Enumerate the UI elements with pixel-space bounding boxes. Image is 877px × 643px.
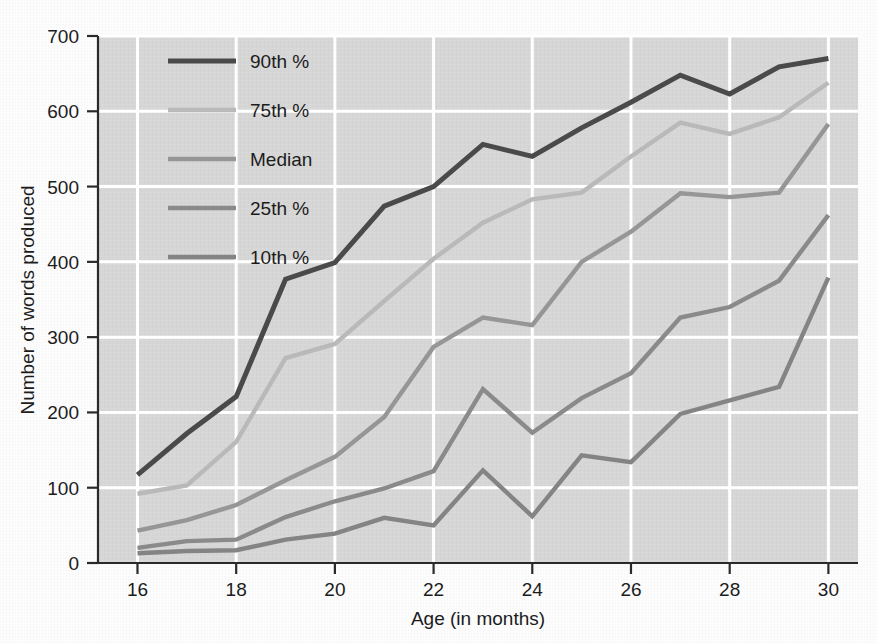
x-axis-tick-labels: 1618202224262830	[127, 579, 839, 600]
x-axis-tick-label: 20	[324, 579, 345, 600]
y-axis-tick-label: 0	[68, 553, 79, 574]
legend-label-25th: 25th %	[250, 198, 309, 219]
y-axis-tick-label: 700	[47, 26, 79, 47]
word-production-percentile-chart: 0100200300400500600700 1618202224262830 …	[0, 0, 877, 643]
y-axis-tick-labels: 0100200300400500600700	[47, 26, 79, 574]
x-axis-tick-label: 16	[127, 579, 148, 600]
x-axis-title: Age (in months)	[411, 608, 545, 629]
legend-label-90th: 90th %	[250, 51, 309, 72]
x-axis-tick-label: 26	[620, 579, 641, 600]
y-axis-title: Number of words produced	[17, 185, 38, 414]
legend-label-10th: 10th %	[250, 247, 309, 268]
chart-canvas: 0100200300400500600700 1618202224262830 …	[0, 0, 877, 643]
y-axis-tick-label: 100	[47, 478, 79, 499]
x-axis-tick-label: 22	[423, 579, 444, 600]
y-axis-tick-label: 600	[47, 101, 79, 122]
x-axis-tick-label: 18	[226, 579, 247, 600]
y-axis-tick-label: 300	[47, 327, 79, 348]
legend-label-median: Median	[250, 149, 312, 170]
x-axis-tick-label: 28	[719, 579, 740, 600]
y-axis-tick-label: 400	[47, 252, 79, 273]
chart-page: 0100200300400500600700 1618202224262830 …	[0, 0, 877, 643]
y-axis-tick-label: 200	[47, 402, 79, 423]
x-axis-ticks	[137, 563, 828, 574]
y-axis-ticks	[87, 36, 98, 563]
x-axis-tick-label: 24	[522, 579, 544, 600]
x-axis-tick-label: 30	[818, 579, 839, 600]
legend-label-75th: 75th %	[250, 100, 309, 121]
y-axis-tick-label: 500	[47, 177, 79, 198]
